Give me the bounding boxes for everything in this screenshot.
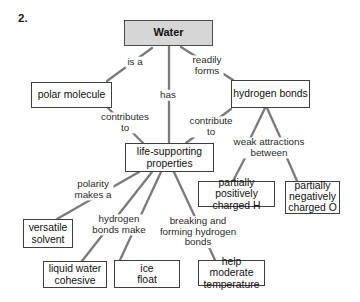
edge-label-polarity-makes-a: polarity makes a (72, 179, 113, 200)
edge-hbonds-weak-right (267, 108, 281, 139)
node-polar-molecule: polar molecule (31, 82, 112, 108)
edge-label-readily-forms: readily forms (191, 55, 224, 76)
node-partially-negative-o: partially negatively charged O (285, 181, 340, 214)
edge-weak-partially-negative (287, 158, 297, 181)
edge-label-contribute-to: contribute to (187, 116, 234, 137)
node-partially-positive-h: partially positively charged H (198, 181, 275, 207)
node-liquid-water-cohesive: liquid water cohesive (43, 261, 107, 288)
edge-hbonds-weak-left (250, 108, 265, 139)
edge-label-weak-attractions: weak attractions between (232, 137, 307, 158)
edge-label-contributes-to: contributes to (99, 112, 151, 133)
edge-label-has: has (158, 90, 178, 101)
node-life-supporting-properties: life-supporting properties (125, 143, 214, 172)
edge-label-hydrogen-bonds-make: hydrogen bonds make (90, 214, 147, 235)
edge-label-breaking-and-forming: breaking and forming hydrogen bonds (158, 216, 238, 248)
edge-label-is-a: is a (125, 57, 144, 68)
node-water: Water (124, 20, 213, 46)
figure-number: 2. (18, 12, 28, 24)
node-versatile-solvent: versatile solvent (23, 219, 73, 248)
node-ice-float: ice float (114, 260, 180, 288)
node-hydrogen-bonds: hydrogen bonds (231, 80, 310, 108)
node-help-moderate-temperature: help moderate temperature (198, 260, 265, 286)
concept-map: 2. is a has readily forms contributes to… (0, 0, 360, 302)
